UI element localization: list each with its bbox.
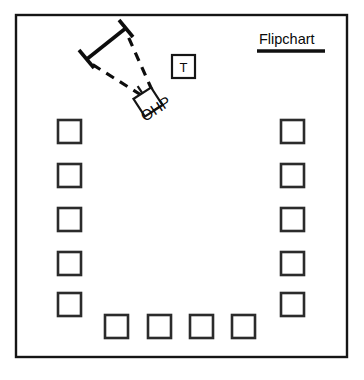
- seat-right-5: [281, 293, 304, 316]
- seat-row-bottom: [105, 315, 255, 338]
- flipchart-label: Flipchart: [259, 31, 315, 47]
- screen-end-cap-lower: [79, 50, 94, 68]
- seat-right-3: [281, 208, 304, 231]
- beam-ray-left: [90, 63, 141, 95]
- beam-ray-right: [127, 34, 152, 90]
- screen-surface: [87, 28, 126, 59]
- seat-column-right: [281, 120, 304, 316]
- seat-right-1: [281, 120, 304, 143]
- room-layout-diagram: OHP T Flipchart: [0, 0, 364, 380]
- seat-right-2: [281, 164, 304, 187]
- seat-left-5: [58, 293, 81, 316]
- flipchart: Flipchart: [257, 31, 325, 51]
- seat-column-left: [58, 120, 81, 316]
- projection-screen-icon: [79, 20, 133, 68]
- trainer-table: T: [172, 55, 195, 78]
- seat-left-3: [58, 208, 81, 231]
- seat-right-4: [281, 252, 304, 275]
- seat-bottom-4: [232, 315, 255, 338]
- seat-left-4: [58, 252, 81, 275]
- screen-end-cap-upper: [119, 20, 133, 37]
- seat-bottom-2: [148, 315, 171, 338]
- projection-beam-icon: [90, 34, 152, 95]
- trainer-label: T: [180, 60, 188, 75]
- seat-left-2: [58, 164, 81, 187]
- seat-bottom-1: [105, 315, 128, 338]
- seat-left-1: [58, 120, 81, 143]
- seat-bottom-3: [190, 315, 213, 338]
